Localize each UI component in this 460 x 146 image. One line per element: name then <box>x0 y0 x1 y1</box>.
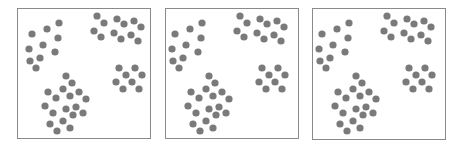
dot <box>403 15 410 22</box>
panel-frame <box>313 9 446 140</box>
panel-1 <box>18 9 151 139</box>
dot <box>52 94 59 101</box>
dot <box>209 92 216 99</box>
dot <box>352 72 359 79</box>
panel-frame <box>166 9 299 139</box>
dot <box>68 79 75 86</box>
dot <box>316 57 323 64</box>
dot <box>339 109 346 116</box>
dot <box>41 102 48 109</box>
dot <box>182 41 189 48</box>
dot <box>128 78 135 85</box>
dot <box>271 78 278 85</box>
dot <box>405 64 412 71</box>
dot <box>281 71 288 78</box>
dot <box>186 25 193 32</box>
dot <box>336 120 343 127</box>
dot <box>356 124 363 131</box>
dot <box>233 27 240 34</box>
dot <box>131 64 138 71</box>
dot <box>407 35 414 42</box>
dot <box>212 111 219 118</box>
dot <box>28 30 35 37</box>
dot <box>62 72 69 79</box>
dot <box>280 23 287 30</box>
dot <box>365 88 372 95</box>
dot <box>315 45 322 52</box>
dot <box>66 124 73 131</box>
dot <box>318 30 325 37</box>
dot <box>417 31 424 38</box>
dot <box>409 85 416 92</box>
dot <box>349 85 356 92</box>
dot <box>322 64 329 71</box>
dot <box>135 85 142 92</box>
dot <box>369 109 376 116</box>
dot <box>380 27 387 34</box>
dot <box>329 41 336 48</box>
dot <box>225 95 232 102</box>
dot <box>343 127 350 134</box>
dot <box>192 109 199 116</box>
dot <box>358 79 365 86</box>
dot <box>255 78 262 85</box>
dot <box>263 20 270 27</box>
dot <box>359 111 366 118</box>
dot <box>222 109 229 116</box>
dot <box>130 17 137 24</box>
dot <box>72 103 79 110</box>
dot <box>54 34 61 41</box>
dot <box>236 12 243 19</box>
dot <box>424 37 431 44</box>
dot <box>390 19 397 26</box>
dot <box>209 124 216 131</box>
dot <box>253 29 260 36</box>
dot <box>117 35 124 42</box>
dot <box>274 64 281 71</box>
dot <box>39 41 46 48</box>
dot <box>215 103 222 110</box>
dot <box>62 105 69 112</box>
dot <box>243 19 250 26</box>
dot-cluster-figure <box>0 0 460 146</box>
dot <box>113 15 120 22</box>
dot <box>53 127 60 134</box>
dot <box>273 17 280 24</box>
dot <box>412 71 419 78</box>
dot <box>82 95 89 102</box>
dot <box>202 85 209 92</box>
dot <box>256 15 263 22</box>
dot <box>402 78 409 85</box>
dot <box>341 48 348 55</box>
dot <box>134 37 141 44</box>
dot <box>112 78 119 85</box>
dot <box>171 30 178 37</box>
dot <box>122 71 129 78</box>
dot <box>418 78 425 85</box>
dot <box>196 127 203 134</box>
dot <box>205 105 212 112</box>
dot <box>55 19 62 26</box>
dot <box>428 71 435 78</box>
dot <box>115 64 122 71</box>
panels-layer <box>18 9 446 140</box>
dot <box>184 102 191 109</box>
dot <box>410 20 417 27</box>
dot <box>262 85 269 92</box>
dot <box>345 19 352 26</box>
dot <box>333 25 340 32</box>
dot <box>197 34 204 41</box>
dot <box>25 45 32 52</box>
dot <box>44 88 51 95</box>
dot <box>90 27 97 34</box>
dot <box>383 12 390 19</box>
dot <box>189 120 196 127</box>
dot <box>175 64 182 71</box>
dot <box>79 109 86 116</box>
dot <box>420 17 427 24</box>
dot <box>270 31 277 38</box>
dot <box>43 25 50 32</box>
dot <box>26 57 33 64</box>
dot <box>326 54 333 61</box>
dot <box>349 117 356 124</box>
